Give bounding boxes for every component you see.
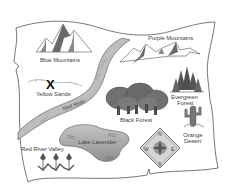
label-yellow-sands: Yellow Sands (36, 91, 71, 97)
compass-w: W (144, 146, 149, 152)
compass-e: E (171, 146, 174, 152)
label-evergreen-forest-line2: Forest (177, 100, 193, 106)
label-lake-lavender: Lake Lavender (78, 139, 116, 145)
label-black-forest: Black Forest (120, 117, 152, 123)
compass-s: S (158, 161, 161, 167)
x-marker: X (46, 77, 55, 92)
label-orange-desert-line2: Desert (184, 138, 201, 144)
treasure-map: X (0, 0, 235, 194)
label-red-river-valley: Red River Valley (21, 146, 64, 152)
label-purple-mountains: Purple Mountains (148, 35, 193, 41)
label-blue-mountains: Blue Mountains (40, 57, 80, 63)
compass-n: N (158, 131, 162, 137)
red-river-valley-tulips-icon (38, 153, 74, 171)
